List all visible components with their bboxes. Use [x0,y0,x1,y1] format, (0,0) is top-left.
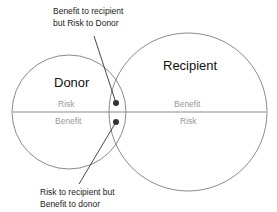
callout-dot-bottom [113,119,119,125]
donor-risk-label: Risk [58,99,75,109]
callout-top-text: Benefit to recipient but Risk to Donor [53,5,123,29]
venn-diagram [0,0,277,212]
callout-bottom-text: Risk to recipient but Benefit to donor [40,186,115,210]
donor-benefit-label: Benefit [55,116,81,126]
donor-title: Donor [54,75,89,90]
callout-bottom-line2: Benefit to donor [40,198,115,210]
callout-top-line1: Benefit to recipient [53,5,123,17]
callout-line-bottom [79,122,116,184]
callout-dot-top [113,100,119,106]
recipient-title: Recipient [163,58,217,73]
recipient-risk-label: Risk [180,116,197,126]
callout-line-top [94,36,116,103]
recipient-benefit-label: Benefit [174,99,200,109]
callout-bottom-line1: Risk to recipient but [40,186,115,198]
callout-top-line2: but Risk to Donor [53,17,123,29]
